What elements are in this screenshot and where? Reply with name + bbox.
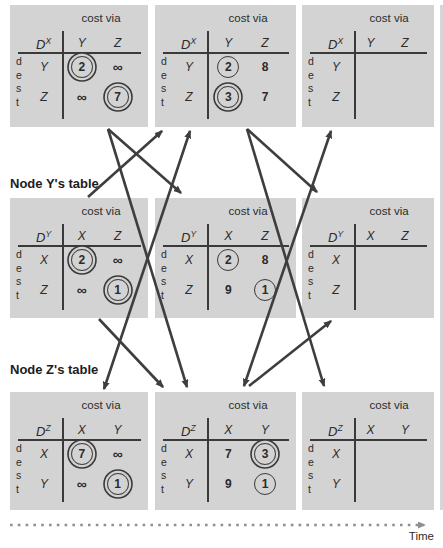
update-arrows-layer <box>0 0 443 548</box>
distance-vector-figure: Node Y's table Node Z's table cost viaDX… <box>0 0 443 548</box>
update-arrow-z-t1-to-x-t2 <box>244 131 331 386</box>
update-arrow-x-t1-to-z-t2 <box>247 129 324 386</box>
update-arrow-z-t1-to-y-t2 <box>249 321 331 386</box>
